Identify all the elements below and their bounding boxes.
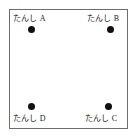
terminal-d-point bbox=[28, 103, 35, 110]
diagram-canvas: たんし A たんし B たんし C たんし D bbox=[0, 0, 139, 138]
terminal-c-label: たんし C bbox=[85, 114, 117, 123]
terminal-a-point bbox=[28, 26, 35, 33]
terminal-b-label: たんし B bbox=[87, 14, 119, 23]
terminal-d-label: たんし D bbox=[13, 114, 46, 123]
terminal-c-point bbox=[105, 103, 112, 110]
terminal-a-label: たんし A bbox=[13, 14, 46, 23]
terminal-b-point bbox=[107, 26, 114, 33]
